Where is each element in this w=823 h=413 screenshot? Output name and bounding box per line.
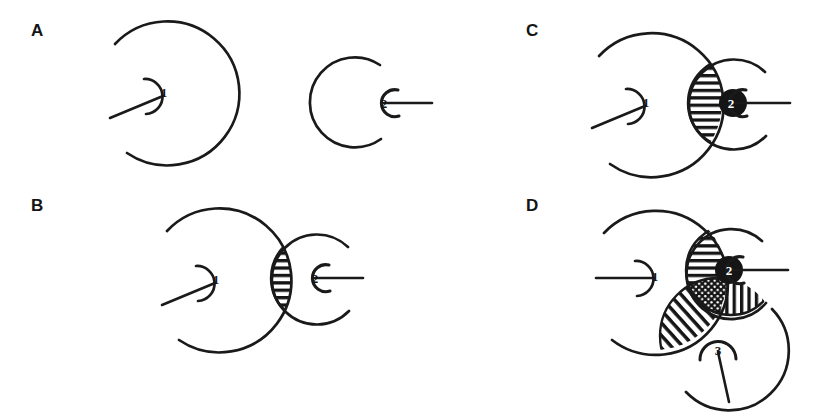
figure-svg: 1 2 [0,0,823,413]
panel-label-b: B [31,197,43,214]
panel-a-marker-1: 1 [110,79,167,118]
panel-c-marker-2-label: 2 [728,96,735,111]
panel-a-circle-1-outline [115,21,239,165]
panel-d-marker-3-label: 3 [715,343,722,358]
panel-a-marker-2-label: 2 [381,96,388,111]
panel-b-marker-2-label: 2 [312,271,319,286]
panel-c-marker-2: 2 [719,89,790,117]
panel-b-marker-2: 2 [312,265,363,292]
panel-c-marker-1: 1 [592,89,649,128]
panel-a-marker-2: 2 [381,90,432,117]
panel-d-graphic: 1 2 3 [596,211,789,410]
panel-label-a: A [31,22,43,39]
panel-b-marker-1: 1 [162,266,219,305]
panel-d-marker-1-label: 1 [652,269,659,284]
panel-label-d: D [526,197,538,214]
panel-c-graphic: 1 2 [592,33,790,177]
figure-canvas: A B C D [0,0,823,413]
panel-d-marker-2: 2 [715,256,788,284]
panel-a-circle-2-outline [310,57,381,147]
panel-b-graphic: 1 2 [162,208,363,352]
panel-a-graphic: 1 2 [110,21,432,165]
panel-b-marker-1-label: 1 [213,272,220,287]
panel-label-c: C [526,22,538,39]
panel-d-marker-1: 1 [596,261,658,296]
panel-d-marker-3: 3 [700,341,736,402]
panel-c-marker-1-label: 1 [643,95,650,110]
panel-d-marker-2-label: 2 [726,263,733,278]
panel-a-marker-1-label: 1 [161,85,168,100]
